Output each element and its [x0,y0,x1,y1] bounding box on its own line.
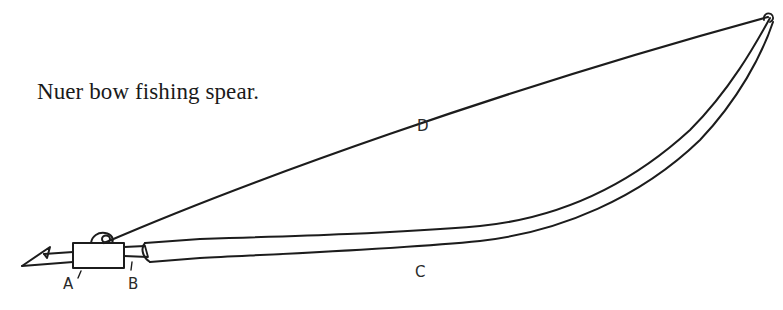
leader-b [131,262,132,270]
leader-a [78,271,81,278]
diagram-figure: Nuer bow fishing spear. A B C D [0,0,783,310]
label-d: D [417,119,429,134]
label-a: A [63,277,73,292]
binding-block-a [73,243,124,268]
shaft-c-upper-edge [145,18,770,243]
label-c: C [415,265,425,280]
bowstring-d [104,17,768,243]
shaft-c-lower-edge [150,22,773,262]
label-b: B [128,277,138,292]
barbed-point [22,247,50,266]
bow-spear-drawing [0,0,783,310]
